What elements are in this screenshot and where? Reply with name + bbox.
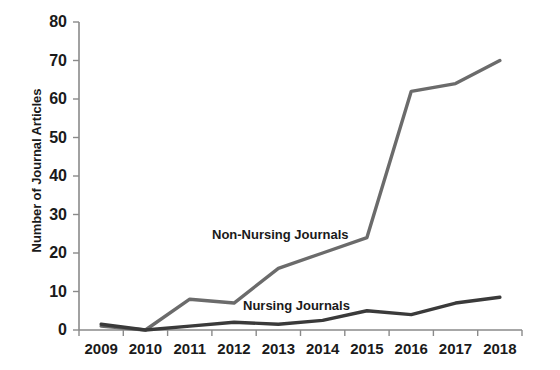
y-axis-ticks [73,22,79,330]
series-line [101,61,500,331]
series-label-nursing: Nursing Journals [243,298,350,313]
series-label-non-nursing: Non-Nursing Journals [212,227,349,242]
axis-lines [79,22,522,330]
plot-area [0,0,560,370]
series-lines [101,61,500,331]
line-chart: Number of Journal Articles 8070605040302… [0,0,560,370]
